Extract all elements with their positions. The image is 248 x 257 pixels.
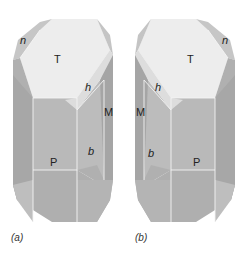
crystal-a: n T h M b P [13, 19, 113, 222]
panel-b-caption: (b) [135, 232, 147, 243]
crystal-b-bottom-right [135, 180, 171, 222]
crystal-b-label-t: T [187, 53, 194, 65]
crystal-b-label-n: n [222, 34, 228, 46]
crystal-a-label-h: h [85, 81, 91, 93]
crystal-figure: n T h M b P n T h M b P [0, 0, 248, 257]
crystal-b-bottom-left [215, 180, 235, 222]
crystal-b-label-p: P [193, 156, 200, 168]
crystal-a-label-m: M [104, 106, 113, 118]
crystal-a-bottom-left [13, 180, 33, 222]
crystal-a-label-t: T [54, 53, 61, 65]
crystal-a-label-b: b [88, 145, 94, 157]
crystal-a-label-p: P [50, 156, 57, 168]
crystal-a-bottom-right [77, 180, 113, 222]
crystal-b [135, 19, 235, 222]
crystal-b-label-h: h [155, 81, 161, 93]
panel-a-caption: (a) [11, 232, 23, 243]
crystal-b-label-m: M [136, 106, 145, 118]
crystal-b-label-b: b [148, 147, 154, 159]
crystal-a-label-n: n [20, 34, 26, 46]
